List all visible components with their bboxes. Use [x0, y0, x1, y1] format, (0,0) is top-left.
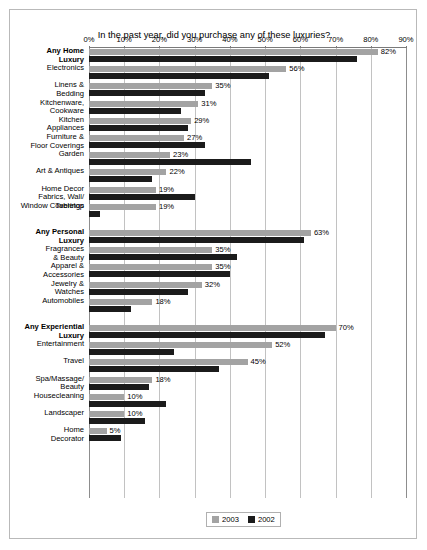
bar-2002 — [89, 142, 205, 148]
bar-2002 — [89, 90, 205, 96]
x-tick-label-60: 60% — [293, 35, 308, 44]
bar-value-label: 63% — [311, 228, 329, 237]
bar-rows: Any Home Luxury82%Electronics56%Linens &… — [89, 48, 406, 498]
category-label: Housecleaning — [0, 392, 84, 401]
bar-2003 — [89, 187, 156, 193]
bar-row: Furniture & Floor Coverings27% — [89, 134, 406, 151]
bar-2002 — [89, 73, 269, 79]
bar-value-label: 32% — [202, 280, 220, 289]
bar-2003 — [89, 204, 156, 210]
plot-area: Any Home Luxury82%Electronics56%Linens &… — [89, 48, 406, 498]
bar-value-label: 19% — [156, 202, 174, 211]
bar-value-label: 27% — [184, 133, 202, 142]
category-label: Kitchen Appliances — [0, 116, 84, 133]
bar-value-label: 18% — [152, 297, 170, 306]
category-label: Jewelry & Watches — [0, 280, 84, 297]
cropped-caption-sliver — [0, 0, 427, 8]
bar-2002 — [89, 159, 251, 165]
bar-value-label: 35% — [212, 81, 230, 90]
bar-2003 — [89, 49, 378, 55]
bar-value-label: 5% — [107, 426, 121, 435]
bar-row: Linens & Bedding35% — [89, 82, 406, 99]
bar-row: Any Experiential Luxury70% — [89, 324, 406, 341]
category-label: Apparel & Accessories — [0, 262, 84, 279]
x-tick-label-20: 20% — [152, 35, 167, 44]
bar-value-label: 56% — [286, 64, 304, 73]
bar-2003 — [89, 101, 198, 107]
category-label: Tabletop — [0, 202, 84, 211]
bar-row: Fragrances & Beauty35% — [89, 246, 406, 263]
category-label: Kitchenware, Cookware — [0, 99, 84, 116]
bar-2002 — [89, 56, 357, 62]
bar-2002 — [89, 176, 152, 182]
category-label: Linens & Bedding — [0, 81, 84, 98]
bar-row: Any Personal Luxury63% — [89, 229, 406, 246]
bar-2002 — [89, 211, 100, 217]
bar-2002 — [89, 418, 145, 424]
bar-2003 — [89, 377, 152, 383]
bar-2002 — [89, 254, 237, 260]
bar-row: Landscaper10% — [89, 410, 406, 427]
bar-2002 — [89, 332, 325, 338]
bar-2002 — [89, 271, 230, 277]
bar-2002 — [89, 194, 195, 200]
x-tick-label-40: 40% — [222, 35, 237, 44]
bar-2002 — [89, 108, 181, 114]
bar-value-label: 22% — [166, 167, 184, 176]
bar-row: Jewelry & Watches32% — [89, 281, 406, 298]
x-axis-tick-labels: 0%10%20%30%40%50%60%70%80%90% — [89, 35, 406, 47]
x-tick-label-80: 80% — [363, 35, 378, 44]
bar-2003 — [89, 394, 124, 400]
bar-row: Kitchen Appliances29% — [89, 117, 406, 134]
category-label: Automobiles — [0, 297, 84, 306]
category-label: Entertainment — [0, 340, 84, 349]
bar-2003 — [89, 282, 202, 288]
bar-2003 — [89, 230, 311, 236]
chart-screenshot: In the past year, did you purchase any o… — [0, 0, 427, 550]
chart-frame: In the past year, did you purchase any o… — [9, 9, 417, 539]
bar-2002 — [89, 349, 174, 355]
bar-2002 — [89, 237, 304, 243]
bar-2003 — [89, 342, 272, 348]
category-label: Spa/Massage/ Beauty — [0, 375, 84, 392]
gridline-90 — [406, 48, 407, 498]
legend-item-2002: 2002 — [248, 515, 275, 524]
bar-value-label: 70% — [336, 323, 354, 332]
legend-swatch-2003 — [212, 516, 219, 523]
x-tick-label-50: 50% — [258, 35, 273, 44]
bar-row: Travel45% — [89, 358, 406, 375]
bar-2002 — [89, 384, 149, 390]
bar-value-label: 18% — [152, 375, 170, 384]
bar-value-label: 45% — [248, 357, 266, 366]
bar-row: Kitchenware, Cookware31% — [89, 100, 406, 117]
bar-2003 — [89, 299, 152, 305]
x-tick-label-10: 10% — [117, 35, 132, 44]
bar-2002 — [89, 289, 188, 295]
bar-row: Home Decor Fabrics, Wall/ Window Coverin… — [89, 186, 406, 203]
bar-row: Home Decorator5% — [89, 427, 406, 444]
bar-row: Housecleaning10% — [89, 393, 406, 410]
bar-row: Automobiles18% — [89, 298, 406, 315]
bar-value-label: 19% — [156, 185, 174, 194]
bar-value-label: 10% — [124, 409, 142, 418]
bar-2003 — [89, 428, 107, 434]
bar-row: Spa/Massage/ Beauty18% — [89, 376, 406, 393]
category-label: Any Personal Luxury — [0, 228, 84, 245]
bar-2002 — [89, 306, 131, 312]
bar-row: Electronics56% — [89, 65, 406, 82]
x-tick-label-0: 0% — [84, 35, 95, 44]
bar-row: Entertainment52% — [89, 341, 406, 358]
bar-value-label: 29% — [191, 116, 209, 125]
legend-label-2003: 2003 — [222, 515, 239, 524]
bar-2003 — [89, 152, 170, 158]
bar-value-label: 23% — [170, 150, 188, 159]
category-label: Furniture & Floor Coverings — [0, 133, 84, 150]
category-label: Travel — [0, 357, 84, 366]
bar-2003 — [89, 411, 124, 417]
bar-2003 — [89, 66, 286, 72]
bar-value-label: 52% — [272, 340, 290, 349]
category-label: Home Decorator — [0, 426, 84, 443]
bar-value-label: 35% — [212, 262, 230, 271]
bar-2003 — [89, 169, 166, 175]
bar-row: Apparel & Accessories35% — [89, 263, 406, 280]
